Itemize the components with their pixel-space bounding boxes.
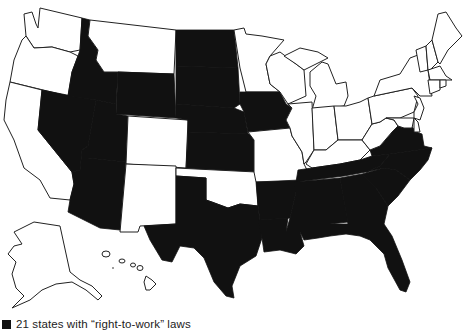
map-legend: 21 states with “right-to-work” laws <box>2 318 191 330</box>
state-alaska <box>8 222 102 308</box>
state-north-dakota <box>176 30 238 68</box>
state-wyoming <box>116 72 176 118</box>
legend-label: 21 states with “right-to-work” laws <box>16 318 191 330</box>
state-colorado <box>126 116 188 168</box>
state-new-jersey <box>414 96 424 120</box>
state-florida <box>330 224 410 292</box>
state-michigan-lower <box>310 62 348 110</box>
state-montana <box>88 20 176 74</box>
state-hawaii <box>102 251 156 290</box>
us-map <box>0 0 468 312</box>
state-kansas <box>186 132 254 172</box>
state-maine <box>432 12 462 64</box>
state-new-mexico <box>120 164 176 232</box>
state-rhode-island <box>440 80 446 88</box>
legend-swatch <box>2 320 11 329</box>
state-south-dakota <box>176 66 240 108</box>
state-connecticut <box>428 80 440 94</box>
